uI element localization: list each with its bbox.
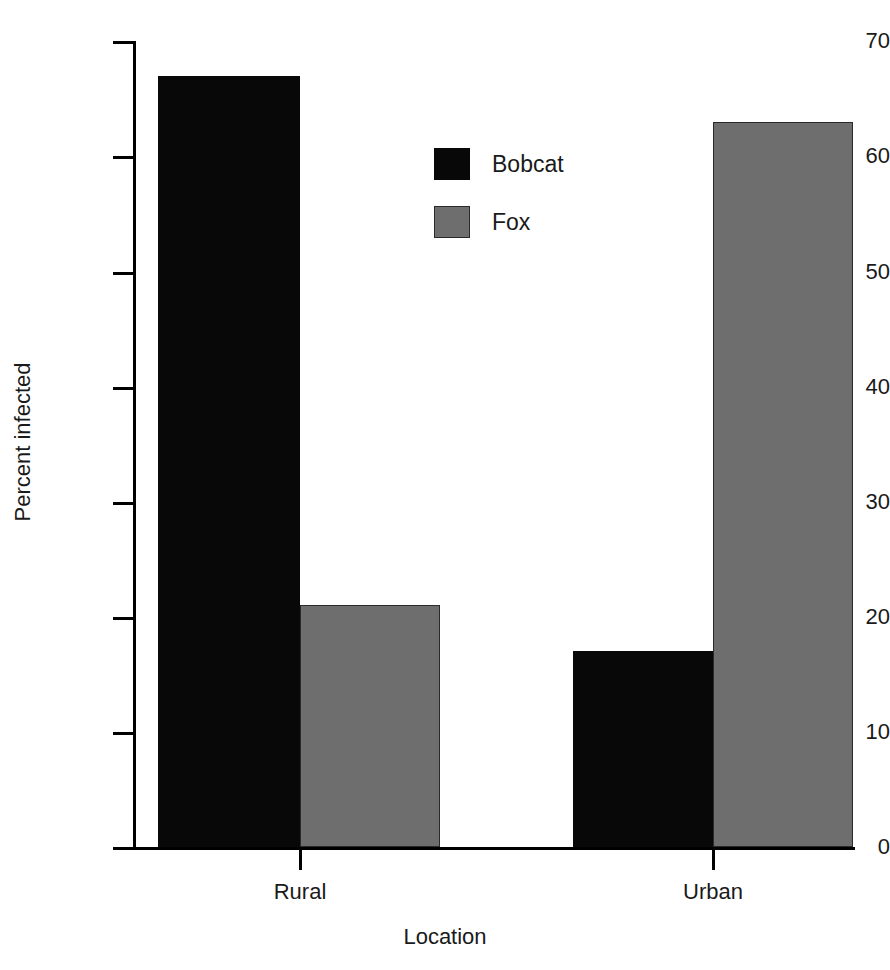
legend-label-fox: Fox (492, 209, 530, 235)
x-axis-line (133, 847, 855, 850)
y-axis-tick-40 (113, 387, 134, 390)
y-axis-line (133, 41, 136, 850)
bar-rural-bobcat (158, 76, 300, 847)
y-axis-tick-10 (113, 732, 134, 735)
y-axis-tick-0 (113, 847, 134, 850)
y-axis-tick-30 (113, 502, 134, 505)
bar-urban-bobcat (573, 651, 713, 847)
x-axis-tick-urban (712, 850, 715, 870)
y-axis-tick-50 (113, 272, 134, 275)
bar-chart: 70 60 50 40 30 20 10 0 Rural Urban Locat… (0, 0, 890, 970)
bar-rural-fox (300, 605, 440, 847)
legend-swatch-fox-icon (434, 206, 470, 238)
x-axis-tick-rural (299, 850, 302, 870)
legend-swatch-bobcat-icon (434, 148, 470, 180)
y-axis-tick-label-70: 70 (832, 30, 890, 52)
x-axis-title: Location (0, 925, 890, 949)
y-axis-tick-60 (113, 156, 134, 159)
y-axis-title: Percent infected (11, 342, 35, 542)
y-axis-tick-70 (113, 41, 134, 44)
x-axis-tick-label-rural: Rural (220, 880, 380, 904)
legend-label-bobcat: Bobcat (492, 151, 564, 177)
plot-area: 70 60 50 40 30 20 10 0 Rural Urban Locat… (0, 0, 890, 970)
y-axis-tick-20 (113, 617, 134, 620)
x-axis-tick-label-urban: Urban (633, 880, 793, 904)
bar-urban-fox (713, 122, 853, 847)
